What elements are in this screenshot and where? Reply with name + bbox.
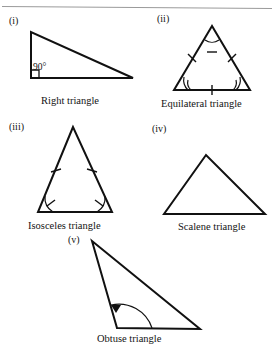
- figure-canvas: [0, 0, 274, 352]
- angle-arc-bottom-left-inner: [188, 80, 191, 90]
- triangle-types-figure: (i) 90° Right triangle (ii) Equilateral …: [0, 0, 274, 352]
- obtuse-triangle-shape: [92, 241, 200, 329]
- top-divider-rule: [2, 7, 272, 9]
- caption-isosceles-triangle: Isosceles triangle: [28, 221, 101, 232]
- angle-arc-tick-bottom-right: [95, 200, 103, 206]
- obtuse-triangle-group: [92, 241, 200, 329]
- scalene-triangle-group: [164, 155, 265, 214]
- equilateral-triangle-group: [174, 26, 250, 95]
- caption-obtuse-triangle: Obtuse triangle: [97, 334, 161, 345]
- equilateral-triangle-shape: [174, 26, 250, 90]
- angle-arc-apex-outer: [205, 40, 219, 42]
- isosceles-triangle-group: [38, 127, 112, 212]
- numeral-label-v: (v): [68, 235, 80, 245]
- right-angle-value-label: 90°: [33, 63, 46, 73]
- numeral-label-iv: (iv): [152, 124, 166, 134]
- scalene-triangle-shape: [164, 155, 265, 214]
- caption-equilateral-triangle: Equilateral triangle: [161, 99, 242, 110]
- numeral-label-ii: (ii): [157, 14, 169, 24]
- angle-arc-tick-bottom-left: [47, 200, 55, 206]
- numeral-label-i: (i): [9, 16, 18, 26]
- isosceles-triangle-shape: [38, 127, 112, 212]
- numeral-label-iii: (iii): [9, 122, 24, 132]
- caption-scalene-triangle: Scalene triangle: [178, 222, 245, 233]
- caption-right-triangle: Right triangle: [41, 96, 99, 107]
- angle-arc-bottom-right-inner: [233, 80, 236, 90]
